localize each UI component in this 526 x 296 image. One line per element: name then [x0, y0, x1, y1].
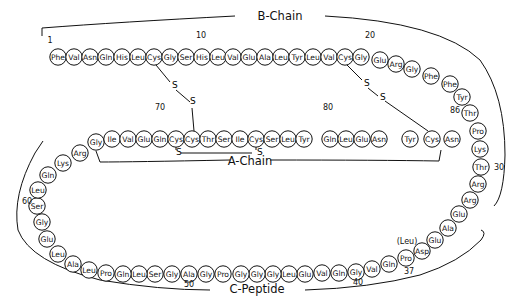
residue-60: Gly — [34, 214, 50, 230]
a-chain-label: A-Chain — [228, 154, 273, 168]
residue-58: Leu — [50, 246, 66, 262]
residue-56: Leu — [81, 262, 97, 278]
position-number: 37 — [404, 267, 414, 276]
residue-53: Leu — [131, 266, 147, 282]
residue-73: Thr — [200, 131, 216, 147]
residue-31: Arg — [470, 176, 486, 192]
svg-text:S: S — [190, 96, 196, 106]
svg-text:Gly: Gly — [166, 270, 179, 279]
svg-text:Leu: Leu — [82, 266, 96, 275]
residue-77: Ser — [264, 131, 280, 147]
svg-text:Gln: Gln — [100, 53, 113, 62]
residue-42: Val — [314, 265, 330, 281]
svg-text:S: S — [257, 147, 263, 157]
svg-text:Lys: Lys — [474, 145, 486, 154]
residue-17: Leu — [305, 49, 321, 65]
residue-14: Ala — [257, 49, 273, 65]
residue-45: Gly — [265, 266, 281, 282]
residue-48: Pro — [215, 266, 231, 282]
proinsulin-diagram: B-Chain A-Chain C-Peptide S S S S — [0, 0, 526, 296]
svg-text:Cys: Cys — [425, 135, 439, 144]
svg-text:Cys: Cys — [338, 53, 352, 62]
residue-47: Gly — [233, 266, 249, 282]
svg-text:Val: Val — [122, 135, 133, 144]
residue-63: Gln — [40, 167, 56, 183]
svg-text:Pro: Pro — [100, 269, 112, 278]
disulfide-bond-b7-a7: S S — [156, 65, 196, 131]
c-peptide-label: C-Peptide — [229, 282, 284, 296]
svg-text:Tyr: Tyr — [297, 135, 310, 144]
residue-8: Gly — [162, 49, 178, 65]
residue-9: Ser — [178, 49, 194, 65]
residue-26: Tyr — [454, 89, 470, 105]
svg-text:Gln: Gln — [154, 135, 167, 144]
residue-4: Gln — [98, 49, 114, 65]
svg-text:Cys: Cys — [147, 53, 161, 62]
position-number: 60 — [22, 197, 32, 206]
residue-74: Ser — [216, 131, 232, 147]
residue-49: Gly — [198, 266, 214, 282]
residue-2: Val — [66, 49, 82, 65]
residue-19: Cys — [337, 49, 353, 65]
svg-text:Pro: Pro — [472, 127, 484, 136]
residue-75: Ile — [232, 131, 248, 147]
svg-text:Leu: Leu — [211, 53, 225, 62]
residue-57: Ala — [65, 256, 81, 272]
svg-text:Arg: Arg — [389, 60, 402, 69]
residue-16: Tyr — [289, 49, 305, 65]
residue-68: Val — [120, 131, 136, 147]
residue-13: Glu — [241, 49, 257, 65]
svg-text:Gln: Gln — [383, 260, 396, 269]
svg-text:S: S — [176, 147, 182, 157]
svg-text:Gly: Gly — [406, 65, 419, 74]
svg-text:Gly: Gly — [235, 270, 248, 279]
svg-text:S: S — [172, 80, 178, 90]
svg-text:Thr: Thr — [201, 135, 215, 144]
svg-text:Ala: Ala — [442, 224, 454, 233]
residue-24: Phe — [423, 68, 439, 84]
svg-text:Glu: Glu — [138, 135, 151, 144]
svg-text:Gly: Gly — [350, 268, 363, 277]
position-number: 30 — [494, 163, 504, 172]
svg-text:Gly: Gly — [90, 138, 103, 147]
residue-44: Leu — [281, 266, 297, 282]
svg-text:Cys: Cys — [185, 135, 199, 144]
residue-85: Cys — [424, 131, 440, 147]
residue-32: Arg — [462, 192, 478, 208]
residue-86: Asn — [444, 131, 460, 147]
residue-72: Cys — [184, 131, 200, 147]
diagram-canvas: B-Chain A-Chain C-Peptide S S S S — [0, 0, 526, 296]
svg-text:Ala: Ala — [67, 260, 79, 269]
svg-text:Gly: Gly — [355, 53, 368, 62]
residue-33: Glu — [451, 206, 467, 222]
svg-text:S: S — [380, 92, 386, 102]
svg-text:Asp: Asp — [415, 247, 429, 256]
svg-text:Leu: Leu — [31, 186, 45, 195]
residue-76: Cys — [248, 131, 264, 147]
svg-text:Val: Val — [316, 269, 327, 278]
svg-text:Gln: Gln — [117, 270, 130, 279]
residue-52: Ser — [147, 266, 163, 282]
svg-text:Ser: Ser — [266, 135, 279, 144]
residue-3: Asn — [82, 49, 98, 65]
svg-text:His: His — [196, 53, 208, 62]
residue-25: Phe — [442, 76, 458, 92]
position-number: 50 — [184, 280, 194, 289]
residue-55: Pro — [98, 265, 114, 281]
svg-text:Tyr: Tyr — [403, 135, 416, 144]
residue-84: Tyr — [402, 131, 418, 147]
residue-12: Val — [225, 49, 241, 65]
residue-67: Ile — [104, 131, 120, 147]
residue-46: Gly — [249, 266, 265, 282]
svg-text:Asn: Asn — [445, 135, 459, 144]
residue-1: Phe — [50, 49, 66, 65]
residue-7: Cys — [146, 49, 162, 65]
residue-35: Glu — [427, 232, 443, 248]
svg-text:Ser: Ser — [180, 53, 193, 62]
svg-text:Gly: Gly — [267, 270, 280, 279]
svg-text:Gly: Gly — [200, 270, 213, 279]
svg-text:Glu: Glu — [41, 235, 54, 244]
svg-text:S: S — [364, 78, 370, 88]
svg-text:Glu: Glu — [453, 210, 466, 219]
svg-text:Ile: Ile — [235, 135, 244, 144]
